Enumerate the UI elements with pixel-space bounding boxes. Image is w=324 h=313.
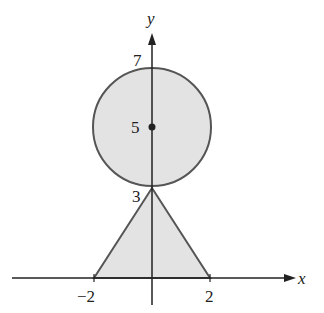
x-tick-label-2: 2 [205,287,214,306]
y-tick-label-7: 7 [133,51,142,70]
y-tick-label-5: 5 [131,118,140,137]
center-point [149,124,156,131]
x-axis-label: x [297,269,306,288]
y-axis-label: y [145,9,155,28]
x-axis-arrow-icon [284,274,296,282]
y-axis-arrow-icon [148,33,156,45]
y-tick-label-3: 3 [132,187,141,206]
x-tick-label-neg2: −2 [77,287,95,306]
diagram-canvas: y x 7 5 3 −2 2 [0,0,324,313]
